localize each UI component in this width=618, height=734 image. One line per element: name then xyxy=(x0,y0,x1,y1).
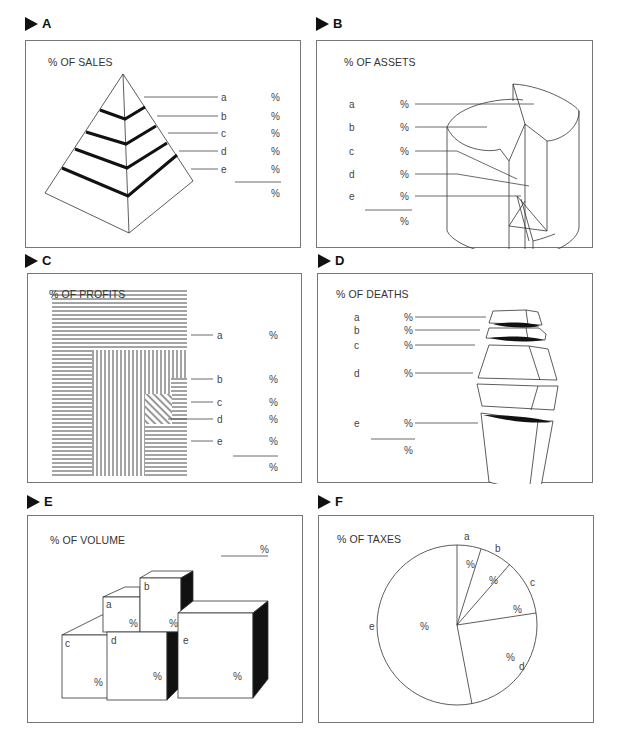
segment-d-label: d xyxy=(349,169,355,180)
value-total: % xyxy=(269,462,278,473)
segment-d-label: d xyxy=(111,635,117,646)
triangle-arrow-icon xyxy=(27,495,40,509)
value-a: % xyxy=(400,99,409,110)
area-e xyxy=(145,424,187,476)
value-e: % xyxy=(400,191,409,202)
area-d xyxy=(145,394,172,424)
segment-a-label: a xyxy=(217,330,223,341)
segment-b-label: b xyxy=(217,374,223,385)
panel-f-box: % OF TAXES a b c d e % % % % % xyxy=(318,515,594,723)
segment-e-label: e xyxy=(217,436,223,447)
panel-d-letter: D xyxy=(335,253,344,268)
segment-c-label: c xyxy=(354,340,359,351)
panel-a-label: A xyxy=(25,16,51,31)
segment-b-label: b xyxy=(354,325,360,336)
value-b: % xyxy=(489,575,498,586)
panel-b-label: B xyxy=(316,16,342,31)
value-e: % xyxy=(420,621,429,632)
value-a: % xyxy=(466,559,475,570)
value-a: % xyxy=(271,92,280,103)
value-b: % xyxy=(271,111,280,122)
panel-e-letter: E xyxy=(44,494,53,509)
segment-b-label: b xyxy=(221,111,227,122)
value-d: % xyxy=(506,652,515,663)
segment-b-label: b xyxy=(144,581,150,592)
value-e: % xyxy=(271,164,280,175)
value-e: % xyxy=(269,436,278,447)
panel-c-letter: C xyxy=(42,253,51,268)
triangle-arrow-icon xyxy=(25,254,38,268)
value-total: % xyxy=(271,188,280,199)
segment-c-label: c xyxy=(221,128,226,139)
triangle-arrow-icon xyxy=(316,17,329,31)
value-b: % xyxy=(404,325,413,336)
segment-c-label: c xyxy=(65,638,70,649)
value-b: % xyxy=(269,374,278,385)
panel-f-label: F xyxy=(318,494,343,509)
panel-e-box: % OF VOLUME % a b c d e % % xyxy=(27,515,303,723)
value-b: % xyxy=(400,122,409,133)
panel-d-box: % OF DEATHS xyxy=(317,273,593,483)
panel-c-box: % OF PROFITS a xyxy=(27,273,302,483)
value-e: % xyxy=(233,671,242,682)
panel-a-box: % OF SALES a b c d e % % % % % % xyxy=(25,40,301,248)
triangle-arrow-icon xyxy=(318,254,331,268)
panel-e-label: E xyxy=(27,494,53,509)
segment-a-label: a xyxy=(106,599,112,610)
segment-d-label: d xyxy=(217,414,223,425)
segment-a-label: a xyxy=(349,99,355,110)
cylinder-chart: a b c d e % % % % % % xyxy=(317,41,594,249)
panel-a-letter: A xyxy=(42,16,51,31)
value-c: % xyxy=(513,604,522,615)
value-d: % xyxy=(400,169,409,180)
segment-b-label: b xyxy=(495,543,501,554)
segment-e-label: e xyxy=(183,635,189,646)
triangle-arrow-icon xyxy=(318,495,331,509)
value-c: % xyxy=(94,677,103,688)
triangle-arrow-icon xyxy=(25,17,38,31)
panel-b-box: % OF ASSETS xyxy=(316,40,593,248)
stacked-urn-chart: a b c d e % % % % % % xyxy=(318,274,594,484)
segment-d-label: d xyxy=(221,146,227,157)
value-e: % xyxy=(404,418,413,429)
pie-chart: a b c d e % % % % % xyxy=(319,516,595,724)
value-d: % xyxy=(153,671,162,682)
segment-c-label: c xyxy=(530,577,535,588)
value-total: % xyxy=(400,216,409,227)
panel-c-label: C xyxy=(25,253,51,268)
pyramid-chart: a b c d e % % % % % % xyxy=(26,41,302,249)
segment-a-label: a xyxy=(221,92,227,103)
value-total: % xyxy=(260,544,269,555)
value-c: % xyxy=(400,146,409,157)
segment-d-label: d xyxy=(519,661,525,672)
panel-d-label: D xyxy=(318,253,344,268)
segment-d-label: d xyxy=(354,368,360,379)
cubes-chart: % a b c d e % % % % % xyxy=(28,516,304,724)
value-b: % xyxy=(169,618,178,629)
value-total: % xyxy=(404,445,413,456)
panel-b-letter: B xyxy=(333,16,342,31)
value-d: % xyxy=(269,414,278,425)
segment-e-label: e xyxy=(354,418,360,429)
value-d: % xyxy=(404,368,413,379)
value-c: % xyxy=(269,397,278,408)
segment-e-label: e xyxy=(349,191,355,202)
panel-f-letter: F xyxy=(335,494,343,509)
segment-a-label: a xyxy=(464,531,470,542)
hatched-squares-chart: a b c d e % % % % % % xyxy=(28,274,303,484)
segment-c-label: c xyxy=(217,397,222,408)
value-a: % xyxy=(404,312,413,323)
segment-c-label: c xyxy=(349,146,354,157)
value-d: % xyxy=(271,146,280,157)
segment-e-label: e xyxy=(221,164,227,175)
value-a: % xyxy=(129,618,138,629)
value-a: % xyxy=(269,330,278,341)
segment-e-label: e xyxy=(369,621,375,632)
value-c: % xyxy=(271,128,280,139)
segment-a-label: a xyxy=(354,312,360,323)
segment-b-label: b xyxy=(349,122,355,133)
value-c: % xyxy=(404,340,413,351)
